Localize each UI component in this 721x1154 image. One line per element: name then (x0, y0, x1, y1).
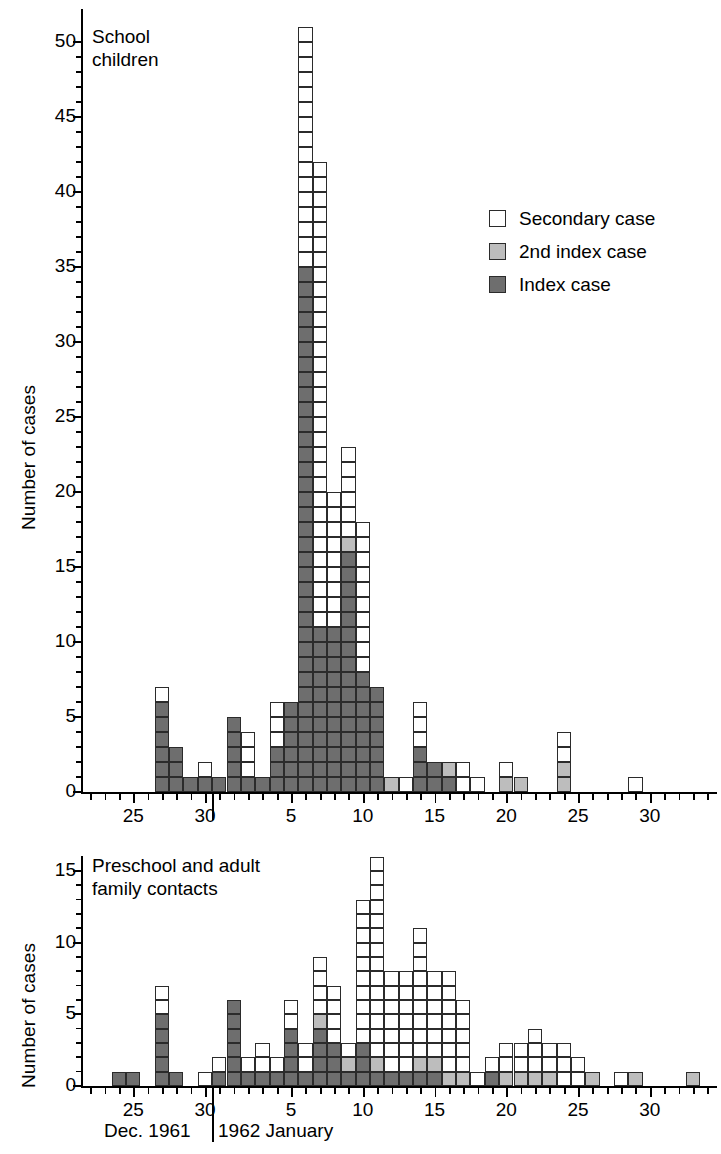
case-cell-index (298, 267, 312, 282)
case-cell-secondary (298, 147, 312, 162)
case-cell-index (341, 567, 355, 582)
case-cell-secondary (470, 1072, 484, 1086)
case-cell-secondary (456, 777, 470, 792)
case-cell-secondary (241, 762, 255, 777)
case-cell-secondary (341, 447, 355, 462)
case-cell-secondary (298, 87, 312, 102)
case-cell-index (112, 1072, 126, 1086)
case-cell-index (298, 747, 312, 762)
case-cell-index (341, 642, 355, 657)
x-tick-mark-major (435, 794, 437, 803)
x-tick-mark-minor (478, 1088, 480, 1094)
case-cell-secondary (341, 477, 355, 492)
bar-column (628, 9, 642, 792)
case-cell-index (313, 657, 327, 672)
case-cell-second-index (499, 777, 513, 792)
case-cell-index (313, 732, 327, 747)
bar-column (571, 856, 585, 1086)
bar-column (198, 856, 212, 1086)
y-tick-label: 20 (30, 480, 76, 502)
case-cell-index (298, 522, 312, 537)
case-cell-secondary (313, 207, 327, 222)
case-cell-index (212, 777, 226, 792)
case-cell-secondary (313, 192, 327, 207)
bar-column (356, 9, 370, 792)
case-cell-secondary (384, 1014, 398, 1028)
case-cell-second-index (686, 1072, 700, 1086)
case-cell-index (241, 777, 255, 792)
x-tick-mark-minor (262, 794, 264, 800)
x-tick-mark-minor (148, 794, 150, 800)
case-cell-index (413, 1072, 427, 1086)
case-cell-secondary (327, 612, 341, 627)
case-cell-secondary (370, 986, 384, 1000)
case-cell-secondary (399, 777, 413, 792)
case-cell-secondary (571, 1057, 585, 1071)
case-cell-secondary (427, 1029, 441, 1043)
case-cell-index (427, 777, 441, 792)
bar-column (384, 9, 398, 792)
case-cell-secondary (313, 177, 327, 192)
case-cell-secondary (341, 462, 355, 477)
case-cell-index (298, 387, 312, 402)
case-cell-index (341, 672, 355, 687)
case-cell-secondary (284, 1000, 298, 1014)
case-cell-index (313, 702, 327, 717)
case-cell-index (341, 687, 355, 702)
case-cell-secondary (313, 342, 327, 357)
case-cell-secondary (313, 477, 327, 492)
x-tick-mark-minor (679, 794, 681, 800)
case-cell-index (370, 702, 384, 717)
bar-column (514, 9, 528, 792)
case-cell-secondary (313, 1000, 327, 1014)
case-cell-index (298, 417, 312, 432)
x-tick-label: 10 (339, 1099, 387, 1121)
case-cell-index (327, 702, 341, 717)
x-tick-mark-minor (406, 1088, 408, 1094)
case-cell-index (169, 762, 183, 777)
case-cell-secondary (413, 943, 427, 957)
x-tick-mark-minor (564, 794, 566, 800)
case-cell-index (298, 312, 312, 327)
case-cell-index (356, 672, 370, 687)
case-cell-second-index (514, 777, 528, 792)
case-cell-secondary (370, 971, 384, 985)
x-tick-mark-minor (248, 794, 250, 800)
case-cell-secondary (298, 42, 312, 57)
case-cell-index (356, 777, 370, 792)
y-tick-label: 10 (30, 931, 76, 953)
x-tick-label: 25 (554, 1099, 602, 1121)
bar-column (341, 9, 355, 792)
case-cell-secondary (313, 387, 327, 402)
case-cell-index (327, 1043, 341, 1057)
case-cell-secondary (313, 312, 327, 327)
case-cell-secondary (356, 971, 370, 985)
x-tick-mark-major (578, 794, 580, 803)
case-cell-secondary (427, 1014, 441, 1028)
x-tick-mark-major (578, 1088, 580, 1097)
x-tick-mark-minor (162, 1088, 164, 1094)
case-cell-index (155, 717, 169, 732)
case-cell-secondary (413, 1043, 427, 1057)
bar-column (227, 9, 241, 792)
case-cell-secondary (456, 1014, 470, 1028)
case-cell-index (298, 762, 312, 777)
case-cell-secondary (356, 986, 370, 1000)
bar-column (370, 856, 384, 1086)
case-cell-index (298, 357, 312, 372)
case-cell-secondary (327, 507, 341, 522)
case-cell-index (427, 1072, 441, 1086)
case-cell-secondary (370, 914, 384, 928)
case-cell-index (313, 642, 327, 657)
legend-swatch-index-icon (489, 276, 506, 293)
case-cell-index (341, 702, 355, 717)
x-tick-mark-major (205, 794, 207, 803)
case-cell-secondary (356, 522, 370, 537)
x-tick-mark-major (506, 1088, 508, 1097)
case-cell-secondary (427, 1000, 441, 1014)
x-tick-mark-minor (305, 1088, 307, 1094)
y-tick-label: 50 (30, 30, 76, 52)
case-cell-index (284, 732, 298, 747)
x-tick-mark-minor (90, 794, 92, 800)
case-cell-index (169, 777, 183, 792)
